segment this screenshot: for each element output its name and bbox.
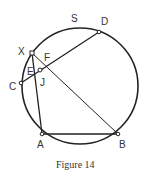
point-d	[97, 30, 101, 34]
segment-xb	[32, 53, 118, 134]
point-a	[40, 132, 44, 136]
label-s: S	[71, 13, 78, 24]
point-x	[30, 51, 34, 55]
point-c	[19, 81, 23, 85]
geometry-figure: S D X F E J C A B Figure 14	[0, 0, 155, 178]
label-d: D	[101, 16, 108, 27]
label-j: J	[40, 77, 45, 88]
point-b	[116, 132, 120, 136]
figure-caption: Figure 14	[56, 159, 95, 170]
label-c: C	[9, 81, 16, 92]
label-x: X	[18, 46, 25, 57]
label-f: F	[44, 52, 50, 63]
label-a: A	[37, 139, 44, 150]
label-e: E	[27, 66, 34, 77]
label-b: B	[119, 139, 126, 150]
point-j	[38, 68, 42, 72]
